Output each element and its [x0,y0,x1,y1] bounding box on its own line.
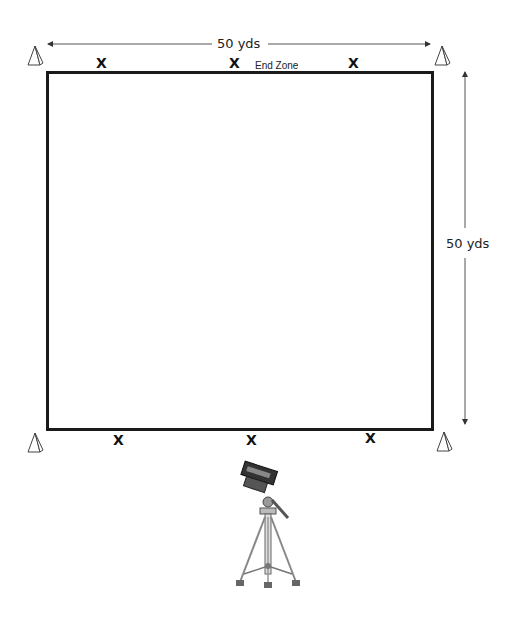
player-marker-bottom-1: X [113,433,124,447]
cone-icon [433,45,451,67]
playing-field [46,71,434,431]
player-marker-top-2: X [229,56,240,70]
camera-tripod-icon [228,462,308,597]
height-label: 50 yds [443,237,492,250]
end-zone-label: End Zone [255,61,298,71]
cone-icon [26,45,44,67]
player-marker-top-3: X [348,56,359,70]
cone-icon [435,431,453,453]
player-marker-bottom-3: X [365,431,376,445]
player-marker-bottom-2: X [246,433,257,447]
player-marker-top-1: X [96,56,107,70]
width-label: 50 yds [214,37,263,50]
cone-icon [26,432,44,454]
